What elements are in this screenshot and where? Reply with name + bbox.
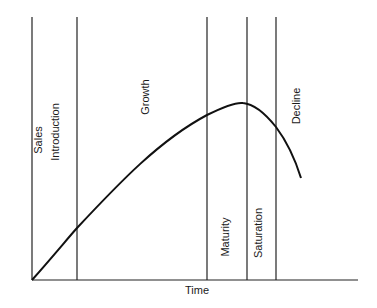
stage-label-saturation: Saturation xyxy=(252,208,264,258)
y-axis-label: Sales xyxy=(32,126,44,154)
stage-label-decline: Decline xyxy=(290,88,302,125)
stage-label-maturity: Maturity xyxy=(219,217,231,257)
product-life-cycle-diagram: Sales Introduction Growth Maturity Satur… xyxy=(0,0,377,308)
stage-label-growth: Growth xyxy=(139,79,151,114)
stage-label-introduction: Introduction xyxy=(49,103,61,160)
x-axis-label: Time xyxy=(185,284,209,296)
